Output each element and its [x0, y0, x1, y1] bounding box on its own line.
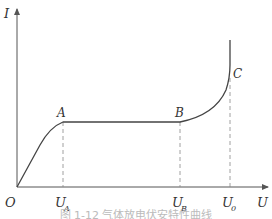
point-b-label: B	[174, 106, 184, 120]
iv-curve	[17, 40, 230, 187]
iv-characteristic-figure: I U O A B C U A U B U 0 图 1-12 气体放电伏安特性曲…	[0, 0, 272, 219]
chart-svg: I U O A B C U A U B U 0	[0, 0, 272, 219]
y-axis-label: I	[3, 6, 10, 21]
figure-caption: 图 1-12 气体放电伏安特性曲线	[0, 206, 272, 219]
point-c-label: C	[233, 67, 242, 81]
point-a-label: A	[56, 106, 66, 120]
